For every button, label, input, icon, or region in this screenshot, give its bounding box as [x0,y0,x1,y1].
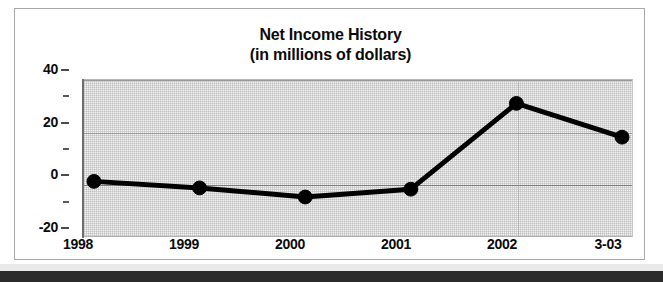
y-axis-label-20: 20 [16,114,58,130]
plot-area [83,79,633,237]
scan-edge-highlight [0,264,663,271]
x-axis-labels: 199819992000200120023-03 [0,236,663,256]
y-axis-label-40: 40 [16,61,58,77]
chart-subtitle: (in millions of dollars) [15,45,646,65]
y-tick-minor-30 [63,95,69,97]
chart-frame: Net Income History (in millions of dolla… [14,8,645,260]
series-net-income [84,80,632,236]
data-point-2002 [509,96,523,110]
data-point-1999 [193,181,207,195]
data-point-2000 [298,190,312,204]
data-point-2001 [404,182,418,196]
y-tick-0 [61,174,69,176]
x-axis-label-2002: 2002 [487,236,517,252]
y-axis-label-minus20: -20 [16,219,58,235]
x-axis-label-1998: 1998 [63,236,93,252]
x-axis-label-2000: 2000 [275,236,305,252]
chart-title: Net Income History [15,25,646,45]
chart-title-block: Net Income History (in millions of dolla… [15,25,646,65]
scanned-page: Net Income History (in millions of dolla… [0,0,663,282]
series-line-path [94,103,622,197]
y-tick-minus20 [61,227,69,229]
y-tick-20 [61,122,69,124]
y-tick-minor-minus10 [63,201,69,203]
data-point-3-03 [615,130,629,144]
x-axis-label-3-03: 3-03 [595,236,622,252]
y-axis-line [82,79,84,238]
scan-edge-bar [0,271,663,282]
y-tick-40 [61,69,69,71]
data-point-1998 [87,174,101,188]
y-tick-minor-10 [63,148,69,150]
y-axis-label-0: 0 [16,166,58,182]
x-axis-label-1999: 1999 [169,236,199,252]
x-axis-label-2001: 2001 [381,236,411,252]
